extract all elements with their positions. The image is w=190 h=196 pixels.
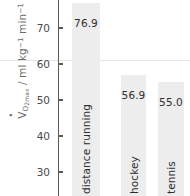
bar-value-label: 55.0 (159, 96, 183, 108)
bar-hockey[interactable]: 56.9hockey (121, 75, 146, 196)
bar-distance-running[interactable]: 76.9distance running (72, 3, 100, 196)
bar-category-label: tennis (165, 161, 177, 194)
bar-tennis[interactable]: 55.0tennis (158, 82, 184, 196)
bar-chart: VO2max / ml kg−1 min−1 7060504030 76.9di… (0, 0, 190, 196)
bars-container: 76.9distance running56.9hockey55.0tennis (0, 0, 190, 196)
bar-category-label: hockey (128, 156, 140, 194)
bar-value-label: 76.9 (74, 17, 98, 29)
bar-value-label: 56.9 (122, 89, 146, 101)
bar-category-label: distance running (80, 104, 92, 194)
